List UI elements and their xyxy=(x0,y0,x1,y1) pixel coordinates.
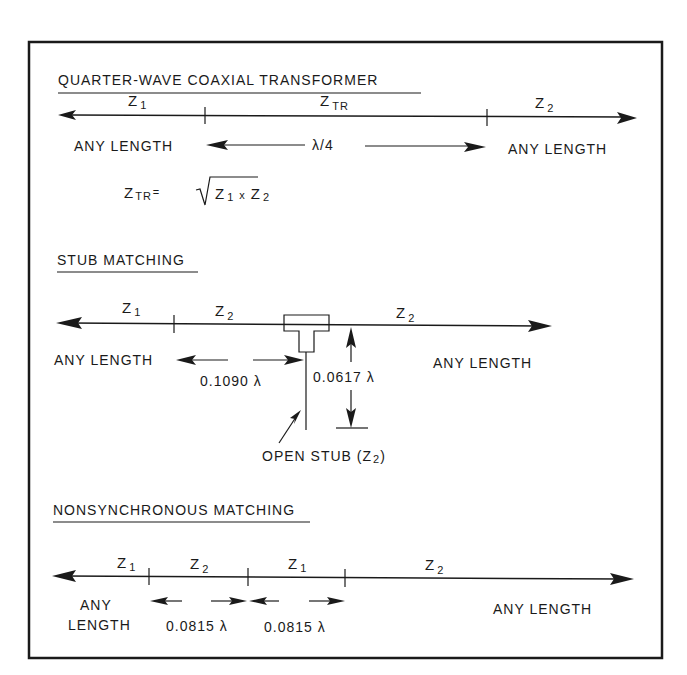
stub-matching-title: STUB MATCHING xyxy=(57,252,185,268)
right-length-label: ANY LENGTH xyxy=(508,141,607,157)
dim-arrow-right-icon xyxy=(464,142,486,152)
quarter-wave-title: QUARTER-WAVE COAXIAL TRANSFORMER xyxy=(58,72,378,88)
segment-label-z1: Z1 xyxy=(122,299,141,318)
pointer-line xyxy=(279,417,296,443)
transmission-line xyxy=(70,323,540,326)
impedance-formula: ZTR= Z1xZ2 xyxy=(124,177,270,205)
segment-label-z2-right: Z2 xyxy=(425,556,444,576)
left-length-label: ANY LENGTH xyxy=(54,352,153,368)
open-stub-label: OPEN STUB (Z2) xyxy=(262,448,386,465)
segment-label-z2: Z2 xyxy=(535,94,554,114)
segment-label-z2: Z2 xyxy=(190,555,209,575)
section2-length-label: 0.0815 λ xyxy=(264,619,326,635)
tee-junction-icon xyxy=(284,315,329,352)
transmission-line xyxy=(64,576,622,579)
segment-label-z1: Z1 xyxy=(117,554,136,573)
segment-label-z2: Z2 xyxy=(215,302,234,322)
quarter-wave-section: QUARTER-WAVE COAXIAL TRANSFORMER Z1 ZTR … xyxy=(58,72,637,205)
segment-label-z1-second: Z1 xyxy=(288,555,307,574)
stub-distance-label: 0.1090 λ xyxy=(200,373,262,389)
pointer-arrow-icon xyxy=(290,410,301,424)
svg-text:ZTR=: ZTR= xyxy=(124,184,160,202)
left-length-line1: ANY xyxy=(80,597,112,613)
left-length-line2: LENGTH xyxy=(68,617,131,633)
segment-label-ztr: ZTR xyxy=(320,92,349,112)
nonsync-title: NONSYNCHRONOUS MATCHING xyxy=(53,502,295,518)
stub-length-label: 0.0617 λ xyxy=(313,369,375,385)
segment-label-z1: Z1 xyxy=(128,92,147,111)
stub-matching-section: STUB MATCHING Z1 Z2 Z2 ANY LENGTH 0.1090… xyxy=(54,252,552,465)
segment-label-z2-right: Z2 xyxy=(396,304,415,324)
quarter-wave-length: λ/4 xyxy=(312,137,334,153)
svg-text:Z1xZ2: Z1xZ2 xyxy=(215,185,270,203)
nonsync-matching-section: NONSYNCHRONOUS MATCHING Z1 Z2 Z1 Z2 ANY … xyxy=(52,502,634,635)
transmission-line xyxy=(70,115,625,117)
section1-length-label: 0.0815 λ xyxy=(166,618,228,634)
diagram-canvas: QUARTER-WAVE COAXIAL TRANSFORMER Z1 ZTR … xyxy=(0,0,687,675)
left-length-label: ANY LENGTH xyxy=(74,138,173,154)
right-length-label: ANY LENGTH xyxy=(433,355,532,371)
arrow-right-icon xyxy=(617,112,637,124)
right-length-label: ANY LENGTH xyxy=(493,601,592,617)
